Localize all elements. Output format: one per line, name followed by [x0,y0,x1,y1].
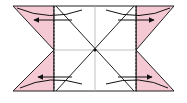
origami-diagram [0,0,187,103]
center-point [93,48,96,51]
flap-bottom-right [136,50,174,91]
flap-bottom-left [13,50,54,91]
flap-top-right [136,6,174,50]
flap-top-left [13,6,54,50]
